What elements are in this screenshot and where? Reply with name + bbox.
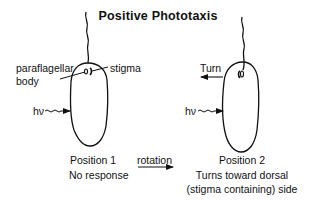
stigma-pointer [92, 67, 108, 71]
stigma-label: stigma [110, 62, 141, 74]
left-stigma [90, 68, 92, 75]
left-cell-body [70, 63, 107, 146]
position-1-label: Position 1 [70, 154, 116, 166]
turn-label: Turn [200, 62, 221, 74]
left-light-wave-arrow [45, 110, 70, 112]
right-light-wave-arrow [198, 110, 223, 112]
no-response-label: No response [69, 169, 129, 181]
right-stigma [239, 71, 241, 78]
stigma-side-label: (stigma containing) side [187, 183, 298, 195]
left-flagellum [86, 12, 89, 63]
left-light-label: hν [33, 105, 44, 117]
left-euglena-cell [45, 12, 108, 146]
left-paraflagellar-body [85, 69, 88, 74]
paraflagellar-label-line2: body [16, 75, 39, 87]
diagram-title: Positive Phototaxis [98, 10, 217, 22]
rotation-label: rotation [137, 154, 172, 166]
right-paraflagellar-body [241, 71, 244, 77]
position-2-label: Position 2 [219, 154, 265, 166]
paraflagellar-label: paraflagellar [16, 62, 74, 74]
right-euglena-cell [198, 17, 259, 152]
right-light-label: hν [185, 105, 196, 117]
turns-toward-label: Turns toward dorsal [196, 169, 288, 181]
